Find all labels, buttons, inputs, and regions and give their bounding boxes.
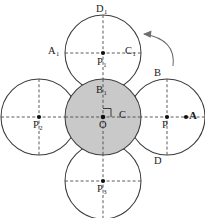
label-o: O bbox=[99, 120, 107, 131]
rotation-arrow-arc bbox=[144, 34, 173, 66]
label-c1: C1 bbox=[125, 46, 136, 57]
label-c: C bbox=[119, 110, 126, 121]
label-b: B bbox=[154, 68, 161, 79]
label-d1: D1 bbox=[96, 4, 107, 15]
label-p: P bbox=[162, 120, 168, 131]
geometry-figure: D1 A1 C1 P1 B1 O C B D P A P2 P3 bbox=[0, 0, 205, 218]
point-a-dot bbox=[184, 115, 188, 119]
label-p1: P1 bbox=[97, 57, 106, 68]
circle-top-center-dot bbox=[101, 51, 105, 55]
rotation-arrow-head bbox=[143, 31, 152, 38]
label-p2: P2 bbox=[33, 120, 42, 131]
label-p3: P3 bbox=[97, 184, 106, 195]
label-b1: B1 bbox=[96, 85, 107, 96]
label-a: A bbox=[189, 110, 197, 121]
label-d: D bbox=[154, 156, 162, 167]
label-a1: A1 bbox=[48, 46, 59, 57]
counterclockwise-rotation-arrow bbox=[143, 31, 173, 66]
